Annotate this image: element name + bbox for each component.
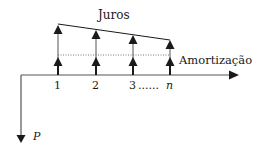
- interest-line: [58, 24, 170, 40]
- time-axis-arrowhead-icon: [229, 71, 239, 80]
- payment-arrow-n: [166, 40, 175, 75]
- period-label-1: 1: [54, 79, 61, 92]
- payment-arrow-1: [54, 25, 63, 75]
- payment-arrow-2: [92, 30, 101, 75]
- cash-flow-diagram: Juros Amortização 1 2 3 ...... n P: [0, 0, 266, 153]
- period-label-n: n: [166, 79, 173, 92]
- interest-arrowhead-icon: [54, 25, 63, 34]
- period-label-2: 2: [92, 79, 99, 92]
- interest-label: Juros: [96, 8, 130, 22]
- principal-arrowhead-icon: [17, 135, 26, 143]
- amortization-arrowhead-icon: [92, 57, 101, 66]
- interest-arrowhead-icon: [166, 40, 175, 49]
- interest-arrowhead-icon: [92, 30, 101, 39]
- amortization-arrowhead-icon: [166, 57, 175, 66]
- interest-arrowhead-icon: [129, 35, 138, 44]
- period-ellipsis: ......: [138, 79, 159, 92]
- period-label-3: 3: [129, 79, 136, 92]
- principal-label: P: [32, 130, 41, 143]
- amortization-label: Amortização: [178, 53, 252, 67]
- amortization-arrowhead-icon: [54, 57, 63, 66]
- amortization-arrowhead-icon: [129, 57, 138, 66]
